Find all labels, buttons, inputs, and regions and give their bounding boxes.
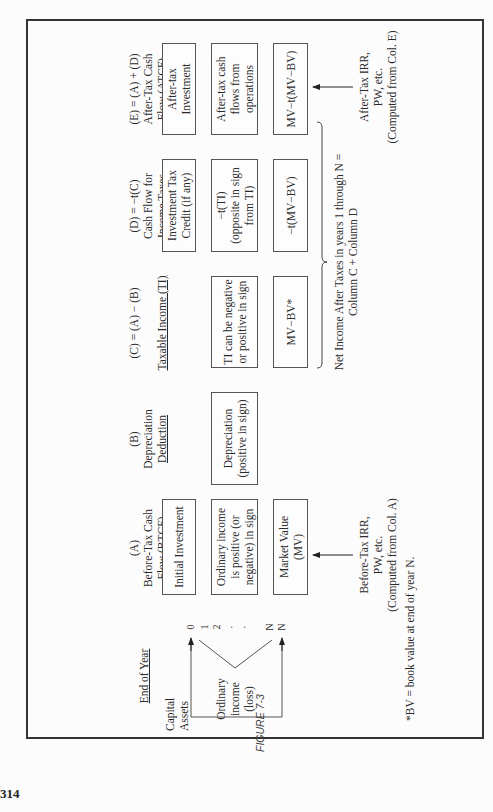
header-col-b: (B) Depreciation Deduction: [127, 389, 169, 489]
header-col-c-line2: [141, 263, 155, 383]
year-label-0: 0: [186, 617, 196, 637]
net-income-note: Net Income After Taxes in years 1 throug…: [332, 151, 360, 373]
header-col-c-line3: Taxable Income (TI): [155, 263, 169, 383]
box-e-after-tax-investment: After-tax Investment: [162, 43, 196, 135]
ordinary-income-v: [199, 640, 272, 668]
box-e-mv-after-tax: MV−t(MV−BV): [273, 43, 308, 135]
box-d-investment-tax-credit: Investment Tax Credit (if any): [162, 159, 196, 252]
figure-caption-label: FIGURE 7-3: [254, 692, 270, 752]
header-col-c: (C) = (A) − (B) Taxable Income (TI): [127, 263, 169, 383]
header-end-of-year: End of Year: [137, 641, 151, 711]
header-col-e-line1: (E) = (A) + (D): [127, 34, 141, 144]
box-c-mv-minus-bv: MV−BV*: [273, 276, 308, 368]
header-col-d-line2: Cash Flow for: [141, 151, 155, 261]
header-col-b-line3: Deduction: [155, 389, 169, 489]
before-tax-note: Before-Tax IRR, PW, etc. (Computed from …: [357, 495, 399, 615]
page-number: 314: [0, 786, 20, 802]
header-col-a-line1: (A): [127, 488, 141, 608]
header-col-d-line1: (D) = −t(C): [127, 151, 141, 261]
net-income-brace: [317, 122, 327, 368]
year-label-dot-2: ·: [240, 617, 250, 637]
ordinary-income-label: Ordinary income (loss): [214, 673, 256, 725]
box-a-ordinary-income: Ordinary income is positive (or negative…: [211, 499, 258, 595]
header-col-e-line2: After-Tax Cash: [141, 34, 155, 144]
header-col-a-line2: Before-Tax Cash: [141, 488, 155, 608]
box-c-taxable-income: TI can be negative or positive in sign: [211, 276, 258, 368]
header-col-b-line2: Depreciation: [141, 389, 155, 489]
box-a-market-value: Market Value (MV): [273, 499, 308, 595]
year-label-n: N: [277, 617, 287, 637]
box-a-initial-investment: Initial Investment: [162, 499, 196, 595]
header-col-c-line1: (C) = (A) − (B): [127, 263, 141, 383]
box-e-after-tax-operations: After-tax cash flows from operations: [211, 43, 258, 135]
box-d-minus-t-ti: −t(TI) (opposite in sign from TI): [211, 159, 258, 252]
footnote-bv: *BV = book value at end of year N.: [403, 561, 417, 721]
capital-assets-label: Capital Assets: [163, 681, 191, 731]
figure-diagram: End of Year (A) Before-Tax Cash Flow (BT…: [27, 20, 486, 741]
year-label-1: 1: [200, 617, 210, 637]
year-label-dot-1: ·: [227, 617, 237, 637]
box-d-minus-t-mv-bv: −t(MV−BV): [273, 159, 308, 252]
box-b-depreciation: Depreciation (positive in sign): [211, 392, 258, 485]
after-tax-note: After-Tax IRR, PW, etc. (Computed from C…: [357, 27, 399, 147]
year-label-n-minus-1: N: [265, 617, 275, 637]
header-col-b-line1: (B): [127, 389, 141, 489]
year-label-2: 2: [212, 617, 222, 637]
